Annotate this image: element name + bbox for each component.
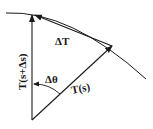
angle-arc-delta-theta	[34, 84, 60, 94]
vector-delta-T	[35, 15, 112, 46]
label-delta-T: ΔT	[55, 35, 70, 47]
label-T-s: T(s)	[70, 80, 92, 97]
label-delta-theta: Δθ	[45, 73, 58, 85]
tangent-vector-diagram: ΔT Δθ T(s) T(s+Δs)	[0, 0, 153, 129]
diagram-svg: ΔT Δθ T(s) T(s+Δs)	[0, 0, 153, 129]
label-T-s-plus-ds: T(s+Δs)	[16, 53, 29, 90]
